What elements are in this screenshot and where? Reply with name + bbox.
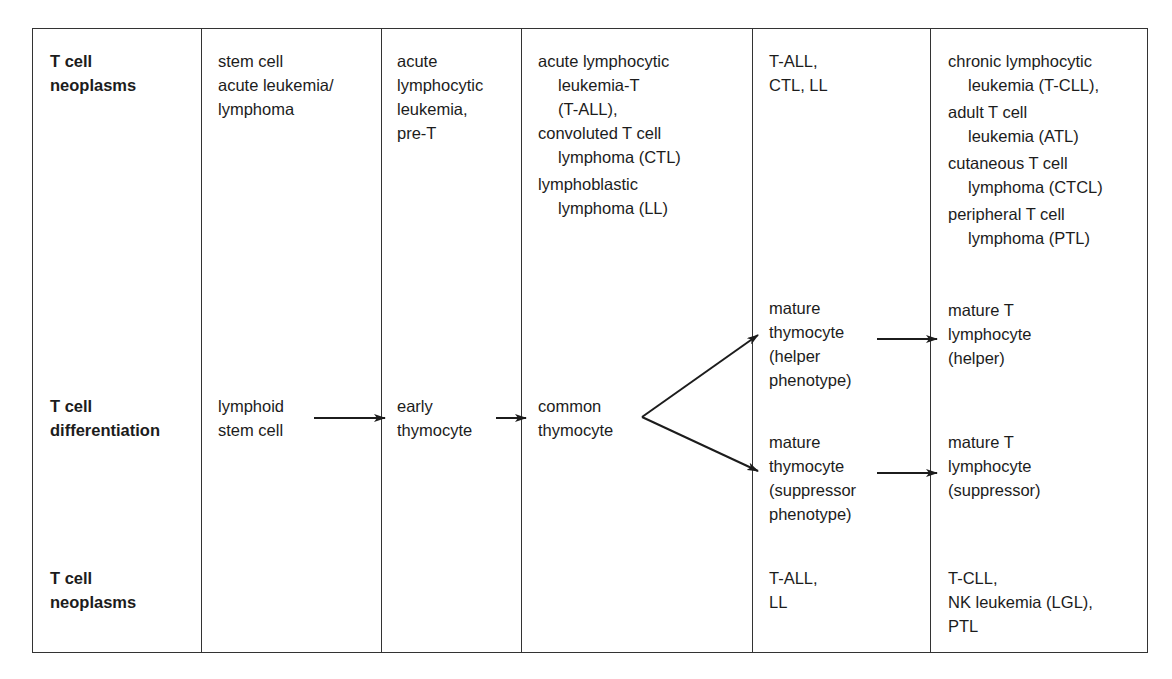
arrow-common-to-suppressor-icon [642, 417, 758, 471]
differentiation-arrows [0, 0, 1172, 679]
arrow-common-to-helper-icon [642, 335, 758, 417]
